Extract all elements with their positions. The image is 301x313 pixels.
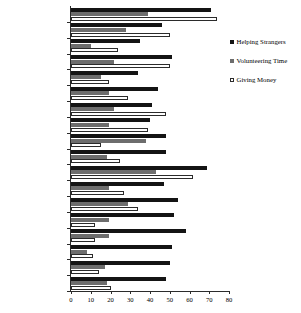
bar-giving-money: [71, 143, 101, 147]
bar-giving-money: [71, 96, 128, 100]
bar-giving-money: [71, 254, 93, 258]
chart-category-row: Western Africa: [0, 212, 301, 228]
bar-helping-strangers: [71, 213, 174, 217]
chart-category-row: North America: [0, 164, 301, 180]
bar-helping-strangers: [71, 166, 207, 170]
legend-label: Volunteering Time: [237, 57, 288, 65]
x-axis-tick-label: 0: [61, 296, 81, 304]
bar-volunteering-time: [71, 250, 87, 254]
chart-category-row: Central Asia: [0, 133, 301, 149]
bar-volunteering-time: [71, 139, 146, 143]
chart-category-row: Eastern Africa: [0, 275, 301, 291]
bar-group: [71, 39, 229, 53]
chart-category-row: Northern Africa: [0, 244, 301, 260]
bar-group: [71, 118, 229, 132]
bar-group: [71, 55, 229, 69]
bar-group: [71, 150, 229, 164]
bar-helping-strangers: [71, 229, 186, 233]
bar-group: [71, 166, 229, 180]
x-axis-tick-label: 40: [140, 296, 160, 304]
bar-giving-money: [71, 286, 111, 290]
x-axis-tick-label: 60: [180, 296, 200, 304]
bar-helping-strangers: [71, 55, 172, 59]
bar-group: [71, 23, 229, 37]
bar-helping-strangers: [71, 182, 164, 186]
bar-volunteering-time: [71, 44, 91, 48]
bar-group: [71, 71, 229, 85]
bar-helping-strangers: [71, 71, 138, 75]
chart-category-row: Western Europe: [0, 22, 301, 38]
bar-helping-strangers: [71, 23, 162, 27]
bar-helping-strangers: [71, 134, 166, 138]
bar-helping-strangers: [71, 261, 170, 265]
x-axis-tick-label: 70: [199, 296, 219, 304]
x-axis-tick-label: 30: [120, 296, 140, 304]
bar-chart: OceaniaWestern EuropeSouthern EuropeNort…: [0, 0, 301, 313]
x-axis-tick: [130, 291, 131, 294]
bar-giving-money: [71, 159, 120, 163]
chart-category-row: Southern Africa: [0, 228, 301, 244]
bar-helping-strangers: [71, 8, 211, 12]
x-axis-tick: [71, 291, 72, 294]
chart-category-row: Central America: [0, 180, 301, 196]
bar-giving-money: [71, 80, 109, 84]
bar-volunteering-time: [71, 265, 105, 269]
bar-group: [71, 87, 229, 101]
bar-helping-strangers: [71, 150, 166, 154]
x-axis-tick: [150, 291, 151, 294]
x-axis-tick: [91, 291, 92, 294]
x-axis-tick: [229, 291, 230, 294]
bar-group: [71, 277, 229, 291]
legend-item: Giving Money: [230, 76, 301, 84]
legend-label: Helping Strangers: [237, 38, 286, 46]
bar-volunteering-time: [71, 281, 107, 285]
chart-category-row: East Asia: [0, 117, 301, 133]
chart-category-row: Oceania: [0, 6, 301, 22]
bar-helping-strangers: [71, 103, 152, 107]
x-axis-tick-label: 80: [219, 296, 239, 304]
chart-legend: Helping StrangersVolunteering TimeGiving…: [230, 38, 301, 95]
bar-volunteering-time: [71, 12, 148, 16]
bar-giving-money: [71, 175, 193, 179]
chart-category-row: Southeastern Asia: [0, 101, 301, 117]
bar-giving-money: [71, 128, 148, 132]
x-axis-tick-label: 10: [81, 296, 101, 304]
bar-giving-money: [71, 238, 95, 242]
bar-volunteering-time: [71, 186, 109, 190]
bar-volunteering-time: [71, 28, 126, 32]
bar-helping-strangers: [71, 39, 140, 43]
chart-category-row: South America: [0, 149, 301, 165]
bar-group: [71, 261, 229, 275]
x-axis-tick: [190, 291, 191, 294]
y-axis-tick: [67, 291, 70, 292]
x-axis-tick-label: 50: [160, 296, 180, 304]
outlined-white-square-icon: [230, 78, 234, 82]
chart-category-row: Caribbean America: [0, 196, 301, 212]
bar-giving-money: [71, 17, 217, 21]
legend-item: Volunteering Time: [230, 57, 301, 65]
bar-volunteering-time: [71, 123, 109, 127]
x-axis-tick-label: 20: [101, 296, 121, 304]
bar-volunteering-time: [71, 170, 156, 174]
chart-category-row: Middle Africa: [0, 259, 301, 275]
legend-label: Giving Money: [237, 76, 277, 84]
bar-group: [71, 198, 229, 212]
filled-black-square-icon: [230, 40, 234, 44]
bar-volunteering-time: [71, 155, 107, 159]
x-axis-tick: [170, 291, 171, 294]
bar-giving-money: [71, 270, 99, 274]
bar-group: [71, 103, 229, 117]
bar-helping-strangers: [71, 87, 158, 91]
bar-helping-strangers: [71, 245, 172, 249]
bar-group: [71, 245, 229, 259]
bar-giving-money: [71, 207, 138, 211]
filled-gray-square-icon: [230, 59, 234, 63]
bar-giving-money: [71, 64, 170, 68]
bar-giving-money: [71, 191, 124, 195]
bar-group: [71, 182, 229, 196]
bar-helping-strangers: [71, 118, 150, 122]
bar-volunteering-time: [71, 202, 128, 206]
bar-group: [71, 134, 229, 148]
bar-group: [71, 213, 229, 227]
bar-volunteering-time: [71, 91, 109, 95]
